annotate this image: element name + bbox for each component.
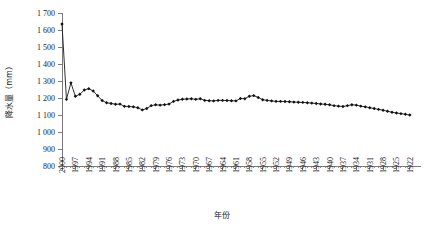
data-series-group (60, 22, 411, 116)
y-tick-label: 1 700 (37, 9, 55, 18)
data-point-marker (306, 101, 309, 104)
x-tick-label: 1991 (98, 157, 107, 173)
x-tick-label: 1925 (392, 157, 401, 173)
x-tick-label: 1970 (192, 157, 201, 173)
data-point-marker (377, 108, 380, 111)
data-point-marker (65, 98, 68, 101)
data-point-marker (190, 97, 193, 100)
data-point-marker (341, 105, 344, 108)
data-point-marker (399, 112, 402, 115)
x-tick-label: 1940 (326, 157, 335, 173)
data-point-marker (203, 99, 206, 102)
data-point-marker (154, 103, 157, 106)
data-point-marker (87, 87, 90, 90)
x-tick-label: 1934 (352, 157, 361, 173)
y-tick-label: 1 200 (37, 94, 55, 103)
x-tick-label: 1931 (366, 157, 375, 173)
data-point-marker (346, 104, 349, 107)
x-tick-label: 1949 (285, 157, 294, 173)
x-tick-label: 1976 (165, 157, 174, 173)
x-tick-label: 1928 (379, 157, 388, 173)
data-point-marker (319, 102, 322, 105)
data-point-marker (274, 100, 277, 103)
data-point-marker (323, 103, 326, 106)
data-point-marker (328, 103, 331, 106)
y-tick-label: 1 000 (37, 128, 55, 137)
data-point-marker (404, 113, 407, 116)
data-point-marker (118, 102, 121, 105)
data-point-marker (123, 105, 126, 108)
data-point-marker (368, 106, 371, 109)
data-point-marker (297, 101, 300, 104)
data-point-marker (216, 99, 219, 102)
x-tick-label: 1961 (232, 157, 241, 173)
x-tick-label: 1964 (219, 157, 228, 173)
y-tick-group: 8009001 0001 1001 2001 3001 4001 5001 60… (37, 9, 62, 171)
y-tick-label: 1 300 (37, 77, 55, 86)
data-point-marker (252, 94, 255, 97)
data-point-marker (225, 99, 228, 102)
data-point-marker (74, 95, 77, 98)
data-point-marker (270, 99, 273, 102)
data-point-marker (194, 98, 197, 101)
data-point-marker (261, 98, 264, 101)
data-point-marker (105, 101, 108, 104)
data-point-marker (239, 97, 242, 100)
data-point-marker (243, 97, 246, 100)
x-tick-label: 1979 (152, 157, 161, 173)
data-point-marker (234, 99, 237, 102)
x-tick-label: 1967 (205, 157, 214, 173)
series-markers-precipitation (60, 22, 411, 116)
data-point-marker (248, 95, 251, 98)
data-point-marker (408, 113, 411, 116)
data-point-marker (69, 81, 72, 84)
data-point-marker (395, 111, 398, 114)
x-axis-title: 年份 (214, 210, 230, 220)
data-point-marker (257, 96, 260, 99)
x-tick-label: 1937 (339, 157, 348, 173)
x-tick-label: 1997 (71, 157, 80, 173)
data-point-marker (337, 104, 340, 107)
data-point-marker (114, 103, 117, 106)
data-point-marker (350, 103, 353, 106)
y-tick-label: 800 (43, 162, 55, 171)
data-point-marker (265, 99, 268, 102)
data-point-marker (163, 103, 166, 106)
data-point-marker (158, 103, 161, 106)
data-point-marker (212, 99, 215, 102)
data-point-marker (132, 105, 135, 108)
data-point-marker (283, 100, 286, 103)
data-point-marker (279, 100, 282, 103)
data-point-marker (136, 106, 139, 109)
data-point-marker (221, 99, 224, 102)
x-tick-label: 1943 (312, 157, 321, 173)
data-point-marker (372, 107, 375, 110)
data-point-marker (355, 103, 358, 106)
y-tick-label: 1 500 (37, 43, 55, 52)
data-point-marker (207, 99, 210, 102)
data-point-marker (230, 99, 233, 102)
x-tick-label: 1994 (85, 157, 94, 173)
data-point-marker (141, 108, 144, 111)
x-tick-label: 1952 (272, 157, 281, 173)
data-point-marker (381, 109, 384, 112)
precipitation-chart-figure: 8009001 0001 1001 2001 3001 4001 5001 60… (0, 0, 429, 231)
data-point-marker (386, 110, 389, 113)
x-tick-label: 1955 (259, 157, 268, 173)
x-tick-label: 1946 (299, 157, 308, 173)
y-axis-title: 降水量（mm） (4, 62, 14, 118)
y-tick-label: 1 400 (37, 60, 55, 69)
y-tick-label: 1 600 (37, 26, 55, 35)
data-point-marker (288, 100, 291, 103)
x-tick-label: 2000 (58, 157, 67, 173)
x-tick-label: 1988 (112, 157, 121, 173)
y-tick-label: 900 (43, 145, 55, 154)
x-tick-group: 2000199719941991198819851982197919761973… (58, 157, 415, 173)
data-point-marker (60, 22, 63, 25)
x-tick-label: 1973 (178, 157, 187, 173)
data-point-marker (332, 104, 335, 107)
data-point-marker (176, 98, 179, 101)
x-tick-label: 1958 (245, 157, 254, 173)
chart-canvas: 8009001 0001 1001 2001 3001 4001 5001 60… (0, 0, 429, 231)
data-point-marker (301, 101, 304, 104)
